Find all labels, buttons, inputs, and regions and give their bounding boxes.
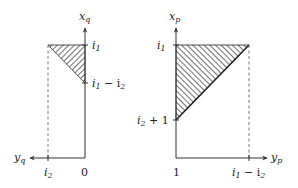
left-tick-label-i1: i1 [92,39,101,53]
left-tick-label-i2: i2 [44,166,53,180]
left-panel: xq i1 i1 − i2 yq i2 0 [13,10,125,180]
right-panel: xp i1 i2 + 1 yp i1 − i2 1 [137,10,282,180]
right-tick-label-i2-plus-1: i2 + 1 [137,114,169,128]
left-horizontal-axis-label: yq [13,151,25,165]
right-tick-label-i1: i1 [157,39,166,53]
left-tick-label-i1-minus-i2: i1 − i2 [92,77,125,91]
left-vertical-axis-label: xq [79,10,90,24]
right-vertical-axis-label: xp [169,10,180,24]
right-horizontal-axis-label: yp [270,151,282,165]
left-hatched-region [48,45,85,83]
diagram-canvas: xq i1 i1 − i2 yq i2 0 xp i1 i2 + 1 yp i1… [0,0,298,188]
right-tick-label-i1-minus-i2: i1 − i2 [232,166,265,180]
right-origin-label: 1 [173,166,180,179]
left-origin-label: 0 [81,166,88,179]
